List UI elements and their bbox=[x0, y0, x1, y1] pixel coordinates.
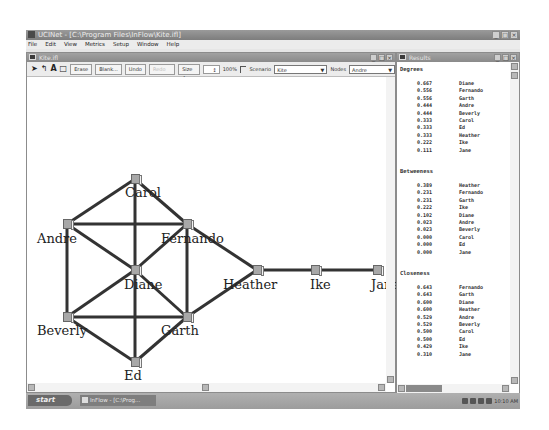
menu-window[interactable]: Window bbox=[137, 40, 159, 49]
security-icon[interactable] bbox=[470, 398, 476, 404]
network-window-title-bar: Kite.ifl _ □ × bbox=[27, 53, 395, 62]
result-value: 0.333 bbox=[417, 124, 432, 130]
node-beverly-label[interactable]: Beverly bbox=[37, 323, 87, 338]
zoom-spinner[interactable]: ↕ bbox=[203, 65, 220, 74]
result-name: Diane bbox=[459, 80, 474, 86]
minimize-button[interactable]: _ bbox=[494, 54, 501, 61]
size-spinner[interactable]: Size 4 bbox=[178, 64, 200, 75]
network-canvas[interactable]: CarolAndreFernandoDianeHeatherIkeJaneBev… bbox=[27, 77, 386, 383]
result-row: 0.556Fernando bbox=[397, 87, 507, 93]
scroll-thumb[interactable] bbox=[406, 385, 442, 392]
node-heather-icon[interactable] bbox=[253, 265, 262, 275]
node-beverly-icon[interactable] bbox=[63, 312, 72, 322]
scroll-down-button[interactable] bbox=[511, 377, 518, 384]
menu-file[interactable]: File bbox=[28, 40, 37, 49]
node-ike-icon[interactable] bbox=[311, 265, 320, 275]
node-ed-label[interactable]: Ed bbox=[124, 368, 142, 383]
result-value: 0.102 bbox=[417, 212, 432, 218]
node-andre-label[interactable]: Andre bbox=[37, 231, 77, 246]
menu-help[interactable]: Help bbox=[167, 40, 180, 49]
scenario-select[interactable]: Kite▼ bbox=[274, 65, 327, 74]
results-content: Degrees0.667Diane0.556Fernando0.556Garth… bbox=[397, 62, 510, 384]
node-diane-icon[interactable] bbox=[131, 265, 140, 275]
result-value: 0.222 bbox=[417, 139, 432, 145]
start-button[interactable]: start bbox=[28, 395, 72, 406]
node-garth-icon[interactable] bbox=[183, 312, 192, 322]
close-button[interactable]: × bbox=[510, 31, 518, 39]
result-value: 0.529 bbox=[417, 321, 432, 327]
result-name: Fernando bbox=[459, 284, 483, 290]
result-value: 0.389 bbox=[417, 182, 432, 188]
erase-button[interactable]: Erase bbox=[70, 64, 92, 75]
node-carol-icon[interactable] bbox=[131, 174, 140, 184]
box-tool-icon[interactable]: □ bbox=[60, 64, 68, 74]
close-button[interactable]: × bbox=[510, 54, 517, 61]
node-heather-label[interactable]: Heather bbox=[223, 277, 277, 292]
text-tool-icon[interactable]: A bbox=[50, 64, 56, 74]
blank-button[interactable]: Blank... bbox=[95, 64, 122, 75]
scroll-right-button[interactable] bbox=[502, 385, 509, 392]
select-arrow-icon[interactable]: ➤ bbox=[31, 64, 38, 74]
menu-edit[interactable]: Edit bbox=[45, 40, 56, 49]
result-value: 0.556 bbox=[417, 87, 432, 93]
scroll-thumb[interactable] bbox=[202, 384, 209, 391]
node-fernando-label[interactable]: Fernando bbox=[161, 231, 224, 246]
result-row: 0.231Garth bbox=[397, 197, 507, 203]
network-icon[interactable] bbox=[462, 398, 468, 404]
results-horizontal-scrollbar[interactable] bbox=[397, 384, 510, 393]
minimize-button[interactable]: _ bbox=[492, 31, 500, 39]
undo-button[interactable]: Undo bbox=[125, 64, 146, 75]
maximize-button[interactable]: □ bbox=[501, 31, 509, 39]
node-garth-label[interactable]: Garth bbox=[161, 323, 199, 338]
scroll-right-button[interactable] bbox=[378, 384, 385, 391]
connection-icon[interactable] bbox=[486, 398, 492, 404]
system-tray: 10:10 AM bbox=[462, 395, 518, 406]
result-value: 0.643 bbox=[417, 284, 432, 290]
restore-button[interactable]: □ bbox=[378, 54, 385, 61]
restore-button[interactable]: □ bbox=[502, 54, 509, 61]
result-name: Ike bbox=[459, 343, 468, 349]
result-name: Diane bbox=[459, 212, 474, 218]
result-value: 0.000 bbox=[417, 249, 432, 255]
close-button[interactable]: × bbox=[386, 54, 393, 61]
result-value: 0.222 bbox=[417, 204, 432, 210]
result-row: 0.444Beverly bbox=[397, 110, 507, 116]
node-carol-label[interactable]: Carol bbox=[125, 185, 161, 200]
result-value: 0.600 bbox=[417, 299, 432, 305]
result-name: Diane bbox=[459, 299, 474, 305]
result-name: Heather bbox=[459, 132, 480, 138]
network-window-title: Kite.ifl bbox=[39, 53, 58, 62]
node-ike-label[interactable]: Ike bbox=[310, 277, 331, 292]
scroll-down-button[interactable] bbox=[387, 376, 394, 383]
results-vertical-scrollbar[interactable] bbox=[510, 62, 519, 384]
result-value: 0.556 bbox=[417, 95, 432, 101]
redo-button[interactable]: Redo bbox=[149, 64, 175, 75]
scroll-left-button[interactable] bbox=[28, 384, 35, 391]
node-andre-icon[interactable] bbox=[63, 219, 72, 229]
horizontal-scrollbar[interactable] bbox=[27, 383, 386, 392]
result-row: 0.667Diane bbox=[397, 80, 507, 86]
node-ed-icon[interactable] bbox=[131, 357, 140, 367]
scenario-checkbox[interactable] bbox=[240, 66, 246, 73]
scroll-left-button[interactable] bbox=[398, 385, 405, 392]
node-fernando-icon[interactable] bbox=[183, 219, 192, 229]
menu-metrics[interactable]: Metrics bbox=[85, 40, 105, 49]
result-name: Carol bbox=[459, 328, 474, 334]
result-name: Fernando bbox=[459, 87, 483, 93]
result-row: 0.643Fernando bbox=[397, 284, 507, 290]
minimize-button[interactable]: _ bbox=[370, 54, 377, 61]
link-tool-icon[interactable]: ↰ bbox=[41, 64, 48, 74]
vertical-scrollbar[interactable] bbox=[386, 77, 395, 383]
scroll-thumb[interactable] bbox=[511, 72, 518, 79]
scroll-up-button[interactable] bbox=[511, 63, 518, 70]
menu-setup[interactable]: Setup bbox=[113, 40, 129, 49]
result-row: 0.529Andre bbox=[397, 314, 507, 320]
result-name: Carol bbox=[459, 117, 474, 123]
node-diane-label[interactable]: Diane bbox=[124, 277, 162, 292]
taskbar-app-button[interactable]: InFlow - [C:\Prog... bbox=[80, 395, 156, 406]
menu-view[interactable]: View bbox=[64, 40, 77, 49]
edge-andre-diane[interactable] bbox=[67, 224, 135, 270]
nodes-select[interactable]: Andre▼ bbox=[349, 65, 395, 74]
volume-icon[interactable] bbox=[478, 398, 484, 404]
node-jane-icon[interactable] bbox=[373, 265, 382, 275]
